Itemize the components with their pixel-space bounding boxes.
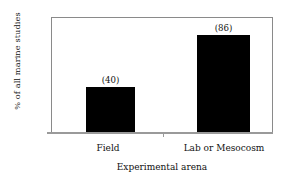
bar-lab-or-mesocosm[interactable]: (86): [197, 35, 250, 133]
x-axis-line: [47, 132, 273, 134]
bar-label-lab-or-mesocosm: (86): [215, 23, 233, 33]
bar-label-field: (40): [102, 75, 120, 85]
bar-field[interactable]: (40): [86, 87, 135, 133]
bar-chart-figure: % of all marine studies 0 10 20 30 40 50: [0, 0, 289, 181]
x-category-label-field: Field: [58, 143, 158, 153]
plot-area: (40) (86): [51, 17, 273, 133]
y-axis-title: % of all marine studies: [12, 0, 22, 126]
x-axis-title: Experimental arena: [51, 162, 273, 172]
x-category-label-lab-or-mesocosm: Lab or Mesocosm: [160, 143, 288, 153]
